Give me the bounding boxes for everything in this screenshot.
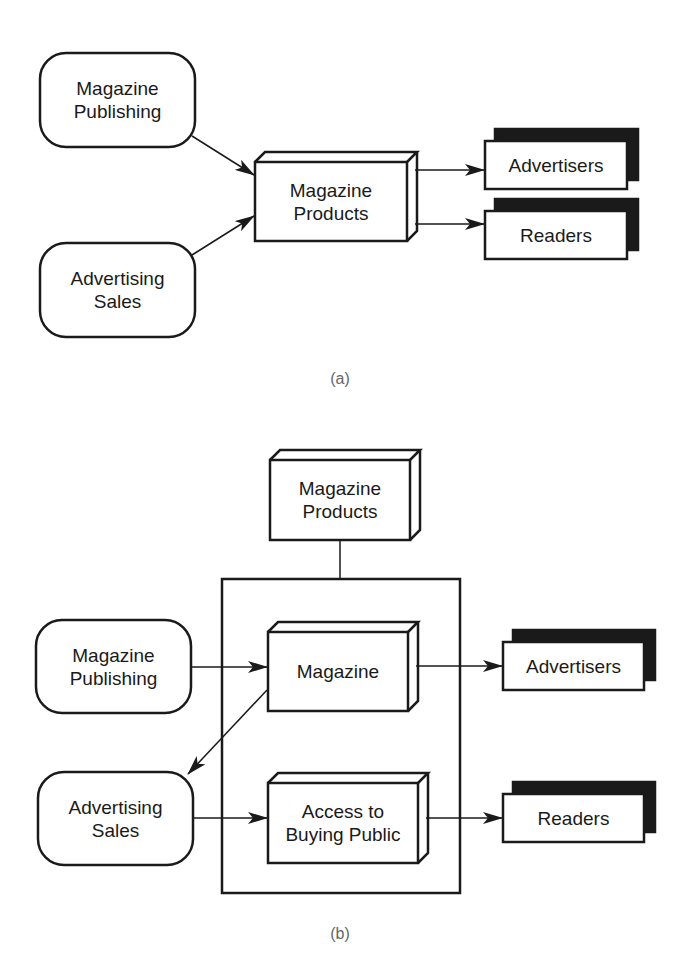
b-edge-magazine-to-sales bbox=[188, 690, 267, 774]
b-magazine-label: Magazine bbox=[268, 632, 408, 711]
b-access-to-buying-public-label: Access to Buying Public bbox=[268, 783, 418, 863]
a-readers-label: Readers bbox=[485, 211, 627, 259]
b-advertising-sales-label: Advertising Sales bbox=[38, 772, 193, 865]
b-advertisers-label: Advertisers bbox=[503, 642, 644, 690]
b-magazine-publishing-label: Magazine Publishing bbox=[36, 620, 191, 713]
caption-a: (a) bbox=[310, 370, 370, 388]
a-magazine-products-label: Magazine Products bbox=[255, 162, 407, 241]
b-readers-label: Readers bbox=[503, 794, 644, 842]
a-advertisers-label: Advertisers bbox=[485, 141, 627, 189]
a-edge-publishing-to-products bbox=[192, 136, 254, 175]
a-advertising-sales-label: Advertising Sales bbox=[40, 243, 195, 337]
b-magazine-products-label: Magazine Products bbox=[270, 460, 410, 540]
a-edge-sales-to-products bbox=[192, 216, 254, 255]
caption-b: (b) bbox=[310, 925, 370, 943]
a-magazine-publishing-label: Magazine Publishing bbox=[40, 53, 195, 147]
